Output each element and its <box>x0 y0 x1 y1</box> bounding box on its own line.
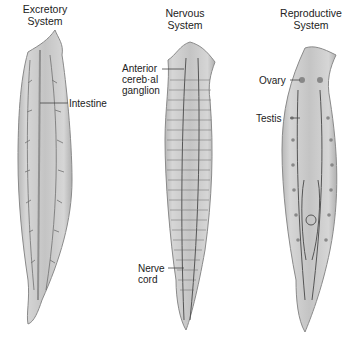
nervous-worm <box>162 42 215 330</box>
excretory-title-line2: System <box>0 16 90 28</box>
label-nerve-line1: Nerve <box>138 263 165 274</box>
label-anterior-cerebral-ganglion: Anterior cereb·al ganglion <box>122 63 160 96</box>
reproductive-title-line2: System <box>266 20 356 32</box>
excretory-worm <box>18 30 72 324</box>
label-anterior-line1: Anterior <box>122 63 160 74</box>
label-nerve-line2: cord <box>138 274 165 285</box>
nervous-title: Nervous System <box>140 8 230 31</box>
nervous-title-line1: Nervous <box>140 8 230 20</box>
flatworm-diagram <box>0 0 360 337</box>
label-nerve-cord: Nerve cord <box>138 263 165 285</box>
label-ovary: Ovary <box>259 75 286 86</box>
nervous-title-line2: System <box>140 20 230 32</box>
reproductive-worm <box>282 47 337 332</box>
label-anterior-line2: cereb·al <box>122 74 160 85</box>
label-testis: Testis <box>256 113 282 124</box>
excretory-title-line1: Excretory <box>0 4 90 16</box>
reproductive-title: Reproductive System <box>266 8 356 31</box>
reproductive-title-line1: Reproductive <box>266 8 356 20</box>
label-intestine: Intestine <box>69 98 107 109</box>
excretory-title: Excretory System <box>0 4 90 27</box>
label-anterior-line3: ganglion <box>122 85 160 96</box>
